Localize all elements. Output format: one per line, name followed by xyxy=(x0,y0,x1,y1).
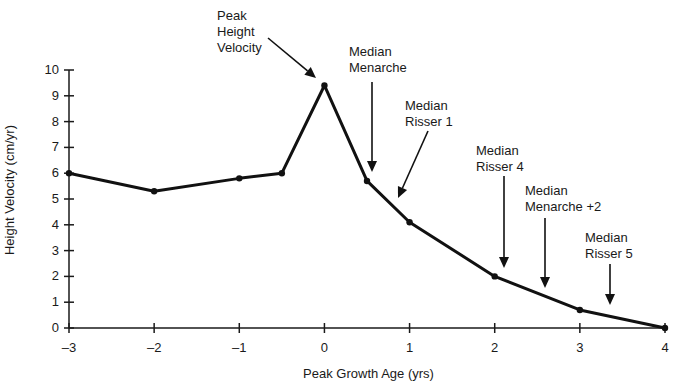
x-tick-label: 0 xyxy=(309,340,339,355)
annotation-label: Median Menarche +2 xyxy=(525,183,601,215)
y-tick-label: 0 xyxy=(37,320,59,335)
y-tick-label: 7 xyxy=(37,139,59,154)
annotation-label: Median Risser 4 xyxy=(476,143,524,175)
x-tick-label: 2 xyxy=(480,340,510,355)
annotation-label: Median Menarche xyxy=(349,44,407,76)
annotation-label: Median Risser 5 xyxy=(585,230,633,262)
y-tick-label: 10 xyxy=(37,62,59,77)
y-tick-label: 2 xyxy=(37,268,59,283)
x-tick-label: –2 xyxy=(139,340,169,355)
y-axis-title: Height Velocity (cm/yr) xyxy=(2,110,17,270)
y-tick-label: 8 xyxy=(37,114,59,129)
annotation-arrows xyxy=(268,38,615,305)
annotation-label: Median Risser 1 xyxy=(405,98,453,130)
x-tick-label: –3 xyxy=(54,340,84,355)
x-axis-title: Peak Growth Age (yrs) xyxy=(0,366,677,381)
x-tick-label: 4 xyxy=(650,340,677,355)
annotation-label: Peak Height Velocity xyxy=(217,8,262,56)
y-tick-label: 3 xyxy=(37,243,59,258)
y-tick-label: 4 xyxy=(37,217,59,232)
x-tick-label: 3 xyxy=(565,340,595,355)
x-tick-label: –1 xyxy=(224,340,254,355)
y-tick-label: 1 xyxy=(37,294,59,309)
y-tick-label: 9 xyxy=(37,88,59,103)
x-tick-label: 1 xyxy=(395,340,425,355)
y-tick-label: 6 xyxy=(37,165,59,180)
y-tick-label: 5 xyxy=(37,191,59,206)
